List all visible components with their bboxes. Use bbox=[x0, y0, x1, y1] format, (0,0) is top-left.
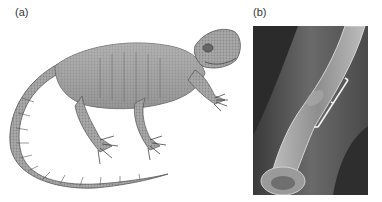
lizard-drawing-icon bbox=[0, 18, 250, 200]
xray-image bbox=[253, 26, 368, 195]
panel-label-a: (a) bbox=[15, 6, 28, 18]
lizard-illustration bbox=[0, 18, 250, 200]
panel-label-b: (b) bbox=[253, 6, 266, 18]
xray-bone-icon bbox=[253, 26, 368, 195]
